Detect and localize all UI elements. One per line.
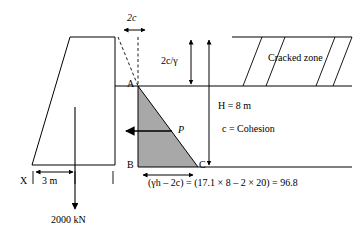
pressure-triangle-shape (138, 86, 198, 167)
label-force-p: P (178, 125, 184, 135)
label-load-2000kn: 2000 kN (51, 215, 86, 225)
crack-mark (333, 37, 352, 86)
diagram-canvas (0, 0, 358, 236)
label-pressure-equation: (γh – 2c) = (17.1 × 8 – 2 × 20) = 96.8 (148, 178, 298, 188)
label-2c: 2c (127, 13, 136, 23)
pressure-triangle (138, 86, 198, 167)
label-height-H: H = 8 m (218, 101, 251, 111)
label-2c-over-gamma: 2c/γ (161, 56, 178, 66)
crack-mark (243, 37, 262, 86)
label-point-a: A (127, 79, 134, 89)
dam-outline (32, 37, 115, 165)
label-base-width: 3 m (42, 176, 57, 186)
label-point-c: C (199, 160, 206, 170)
engineering-diagram: 2c 2c/γ Cracked zone H = 8 m c = Cohesio… (0, 0, 358, 236)
label-cracked-zone: Cracked zone (268, 53, 323, 63)
label-point-b: B (127, 160, 134, 170)
label-cohesion: c = Cohesion (222, 124, 275, 134)
label-point-x: X (20, 176, 27, 186)
dam-body (32, 37, 115, 165)
